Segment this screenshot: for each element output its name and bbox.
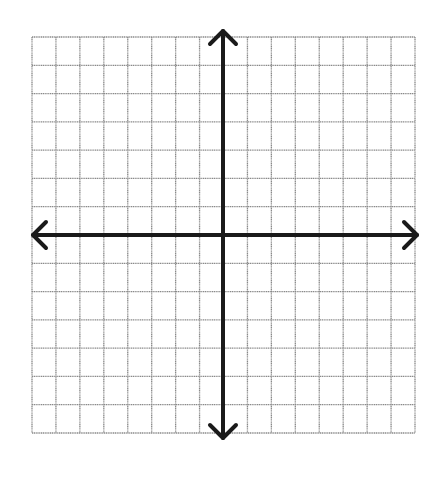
coordinate-plane	[0, 0, 436, 478]
